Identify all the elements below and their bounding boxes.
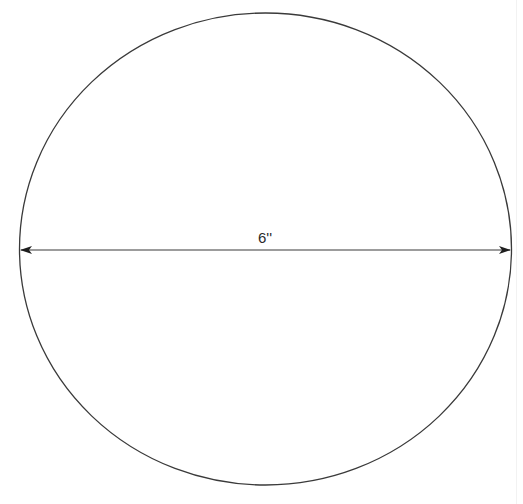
diameter-label: 6''	[0, 229, 523, 247]
circle-diagram	[0, 0, 523, 504]
circle-outline	[20, 13, 512, 485]
